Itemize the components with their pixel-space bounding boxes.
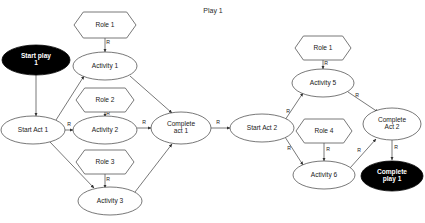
node-role-1-a[interactable]: Role 1 bbox=[74, 12, 136, 38]
edge-e-complete2-completeplay: R bbox=[392, 140, 398, 160]
edge-e-role1b-activity5: R bbox=[323, 60, 328, 69]
node-activity-3[interactable]: Activity 3 bbox=[78, 187, 142, 215]
edge-e-startact2-activity5: R bbox=[285, 93, 303, 120]
diagram-title: Play 1 bbox=[203, 7, 223, 15]
node-label: Start Act 2 bbox=[247, 124, 278, 131]
edge-e-startact1-activity2: R bbox=[65, 121, 73, 130]
node-complete-play-1[interactable]: Completeplay 1 bbox=[361, 161, 423, 191]
edge-label: R bbox=[324, 60, 328, 66]
node-start-act-1[interactable]: Start Act 1 bbox=[1, 116, 65, 144]
node-role-4[interactable]: Role 4 bbox=[296, 119, 352, 143]
node-activity-6[interactable]: Activity 6 bbox=[293, 161, 355, 189]
edge-label: R bbox=[106, 39, 110, 45]
edge-e-role4-activity6: R bbox=[324, 143, 330, 161]
node-label: Role 3 bbox=[95, 158, 114, 165]
node-label: Role 4 bbox=[314, 127, 333, 134]
edge-e-role1a-activity1: R bbox=[105, 38, 110, 52]
edge-e-role3-activity3: R bbox=[105, 174, 110, 188]
node-complete-act-2[interactable]: CompleteAct 2 bbox=[363, 108, 421, 140]
edge-line bbox=[130, 76, 172, 113]
node-activity-2[interactable]: Activity 2 bbox=[73, 116, 137, 144]
nodes-layer: Start play1Role 1Activity 1Role 2Start A… bbox=[1, 12, 423, 215]
edge-e-activity3-complete1 bbox=[135, 144, 172, 192]
edge-e-complete1-startact2: R bbox=[211, 119, 230, 128]
edge-label: R bbox=[106, 176, 110, 182]
edge-label: R bbox=[142, 119, 146, 125]
node-label: Role 2 bbox=[95, 96, 114, 103]
edge-label: R bbox=[326, 146, 330, 152]
edge-label: R bbox=[216, 119, 220, 125]
edge-line bbox=[135, 144, 172, 192]
node-start-act-2[interactable]: Start Act 2 bbox=[230, 114, 294, 142]
node-label: Role 1 bbox=[313, 44, 332, 51]
edge-e-activity5-complete2: R bbox=[348, 92, 378, 112]
node-label: Activity 6 bbox=[311, 171, 338, 179]
node-label: Activity 1 bbox=[92, 62, 119, 70]
node-label: act 1 bbox=[174, 127, 189, 134]
edge-line bbox=[348, 92, 378, 112]
edge-label: R bbox=[357, 147, 361, 153]
edge-e-activity2-complete1: R bbox=[137, 119, 151, 128]
node-start-play-1[interactable]: Start play1 bbox=[2, 45, 70, 75]
node-activity-1[interactable]: Activity 1 bbox=[73, 52, 137, 80]
node-role-1-b[interactable]: Role 1 bbox=[295, 36, 351, 60]
edge-e-activity6-complete2: R bbox=[350, 139, 376, 168]
node-label: Start Act 1 bbox=[18, 126, 49, 133]
edge-e-startact2-activity6: R bbox=[285, 137, 303, 165]
node-label: Activity 2 bbox=[92, 126, 119, 134]
edge-label: R bbox=[67, 121, 71, 127]
edge-e-activity1-complete1 bbox=[130, 76, 172, 113]
node-label: Role 1 bbox=[95, 21, 114, 28]
node-label: Activity 5 bbox=[310, 79, 337, 87]
edge-label: R bbox=[286, 108, 290, 114]
edge-label: R bbox=[287, 145, 291, 151]
node-role-3[interactable]: Role 3 bbox=[76, 150, 134, 174]
node-label: Act 2 bbox=[384, 123, 399, 130]
edge-label: R bbox=[394, 144, 398, 150]
edge-line bbox=[285, 93, 303, 120]
node-label: play 1 bbox=[383, 175, 402, 183]
node-label: 1 bbox=[34, 59, 38, 66]
node-role-2[interactable]: Role 2 bbox=[76, 88, 134, 112]
node-label: Activity 3 bbox=[97, 197, 124, 205]
node-activity-5[interactable]: Activity 5 bbox=[292, 69, 354, 97]
workflow-diagram: RRRRRRRRRRRRR Start play1Role 1Activity … bbox=[0, 0, 425, 223]
edge-line bbox=[350, 139, 376, 168]
edge-label: R bbox=[355, 92, 359, 98]
node-complete-act-1[interactable]: Completeact 1 bbox=[151, 112, 211, 144]
diagram-canvas: RRRRRRRRRRRRR Start play1Role 1Activity … bbox=[0, 0, 425, 223]
